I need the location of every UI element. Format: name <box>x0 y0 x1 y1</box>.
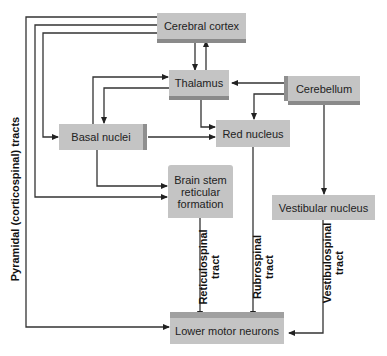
node-basal-nuclei: Basal nuclei <box>59 124 143 150</box>
node-label: Cerebellum <box>296 83 352 95</box>
node-lower-motor-neurons: Lower motor neurons <box>170 318 284 344</box>
node-thalamus: Thalamus <box>169 70 229 96</box>
edge-vestibulospinal <box>289 220 323 333</box>
node-label-line1: Brain stem <box>174 174 227 186</box>
node-red-nucleus: Red nucleus <box>216 120 290 147</box>
label-pyramidal-tracts: Pyramidal (corticospinal) tracts <box>9 99 23 299</box>
label-line2: tract <box>209 227 221 307</box>
edge-thalamus-to-basal <box>104 88 169 123</box>
node-label: Cerebral cortex <box>164 20 239 32</box>
edge-cerebellum-to-red-nucleus <box>254 94 284 119</box>
node-vestibular-nucleus: Vestibular nucleus <box>272 195 375 220</box>
edge-thalamus-to-red-nucleus <box>201 100 215 127</box>
label-reticulospinal-tract: Reticulospinal tract <box>197 227 223 307</box>
edge-cortex-to-brainstem <box>35 25 167 197</box>
node-label: Red nucleus <box>222 128 283 140</box>
label-text: Pyramidal (corticospinal) tracts <box>9 117 21 281</box>
label-vestibulospinal-tract: Vestibulospinal tract <box>321 218 347 308</box>
node-label: Thalamus <box>175 77 223 89</box>
label-line2: tract <box>263 227 275 307</box>
edge-basal-to-brainstem <box>97 150 167 186</box>
node-label: Lower motor neurons <box>175 325 279 337</box>
label-rubrospinal-tract: Rubrospinal tract <box>251 227 277 307</box>
node-brain-stem-reticular-formation: Brain stem reticular formation <box>168 165 233 218</box>
label-line1: Vestibulospinal <box>321 218 333 308</box>
node-label: Basal nuclei <box>71 131 130 143</box>
edge-cortex-to-basal-nuclei <box>43 33 157 137</box>
node-cerebellum: Cerebellum <box>288 76 360 101</box>
motor-control-diagram: Cerebral cortex Thalamus Cerebellum Basa… <box>0 0 387 356</box>
node-cerebral-cortex: Cerebral cortex <box>157 13 246 39</box>
node-label-line3: formation <box>178 198 224 210</box>
label-line1: Rubrospinal <box>251 227 263 307</box>
node-label: Vestibular nucleus <box>279 202 368 214</box>
label-line2: tract <box>333 218 345 308</box>
node-label-line2: reticular <box>181 186 220 198</box>
label-line1: Reticulospinal <box>197 227 209 307</box>
